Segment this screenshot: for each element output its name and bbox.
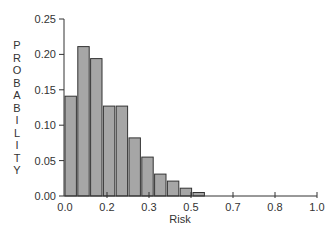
y-label-letter: O — [13, 64, 22, 76]
y-label-letter: T — [14, 152, 21, 164]
y-tick-label: 0.15 — [35, 84, 56, 96]
x-axis-label: Risk — [169, 213, 191, 225]
x-tick-label: 0.3 — [141, 201, 156, 213]
histogram-bars — [65, 47, 204, 196]
histogram-bar — [91, 59, 102, 196]
histogram-bar — [193, 193, 204, 197]
y-tick-label: 0.05 — [35, 155, 56, 167]
histogram-bar — [103, 106, 114, 196]
histogram-bar — [180, 188, 191, 196]
x-tick-label: 0.5 — [183, 201, 198, 213]
histogram-bar — [142, 157, 153, 196]
y-tick-label: 0.25 — [35, 13, 56, 25]
histogram-bar — [78, 47, 89, 196]
y-axis: 0.000.050.100.150.200.25 — [35, 13, 64, 202]
y-tick-label: 0.00 — [35, 190, 56, 202]
y-label-letter: Y — [13, 164, 21, 176]
y-label-letter: B — [13, 102, 20, 114]
y-tick-label: 0.20 — [35, 48, 56, 60]
x-tick-label: 0.7 — [225, 201, 240, 213]
x-tick-label: 0.2 — [99, 201, 114, 213]
y-label-letter: I — [15, 139, 18, 151]
y-tick-label: 0.10 — [35, 119, 56, 131]
histogram-bar — [155, 174, 166, 196]
y-label-letter: B — [13, 77, 20, 89]
histogram-bar — [116, 106, 127, 196]
x-tick-label: 0.8 — [267, 201, 282, 213]
y-label-letter: L — [14, 127, 20, 139]
y-label-letter: I — [15, 114, 18, 126]
histogram-chart: 0.000.050.100.150.200.25 0.00.20.30.50.7… — [0, 0, 335, 234]
y-axis-label: PROBABILITY — [13, 39, 22, 176]
histogram-bar — [65, 96, 76, 196]
histogram-bar — [129, 138, 140, 196]
y-label-letter: P — [13, 39, 20, 51]
x-tick-label: 1.0 — [309, 201, 324, 213]
y-label-letter: A — [13, 89, 21, 101]
histogram-bar — [167, 181, 178, 196]
x-tick-label: 0.0 — [57, 201, 72, 213]
y-label-letter: R — [13, 52, 21, 64]
